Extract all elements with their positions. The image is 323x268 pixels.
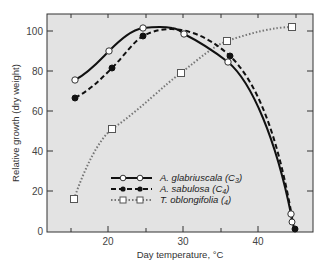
y-axis-title: Relative growth (dry weight) — [10, 64, 21, 182]
legend-label: T. oblongifolia (4) — [160, 194, 231, 206]
y-tick-label: 0 — [37, 226, 43, 237]
y-tick-label: 80 — [32, 66, 44, 77]
x-tick-label: 20 — [102, 236, 114, 247]
y-tick-label: 60 — [32, 106, 44, 117]
x-tick-label: 40 — [252, 236, 264, 247]
y-tick-label: 40 — [32, 146, 44, 157]
growth-chart: 20 30 40 0 20 40 60 80 100 Day temperatu… — [0, 0, 323, 268]
y-tick-label: 100 — [26, 26, 43, 37]
x-axis-title: Day temperature, °C — [137, 249, 224, 260]
y-tick-label: 20 — [32, 186, 44, 197]
y-tick-labels: 0 20 40 60 80 100 — [26, 26, 43, 237]
x-tick-label: 30 — [177, 236, 189, 247]
x-tick-labels: 20 30 40 — [102, 236, 264, 247]
